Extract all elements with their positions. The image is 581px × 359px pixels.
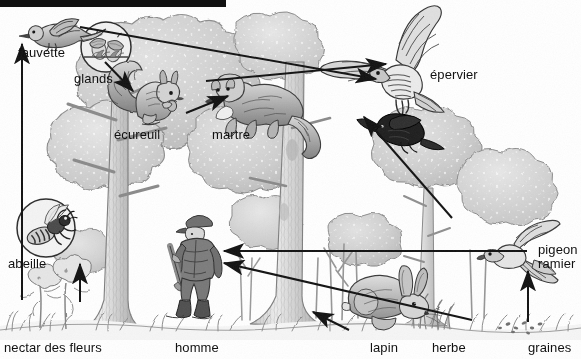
label-nectar-des-fleurs: nectar des fleurs xyxy=(4,341,102,355)
label-epervier: épervier xyxy=(430,68,478,82)
label-herbe: herbe xyxy=(432,341,466,355)
label-ecureuil: écureuil xyxy=(114,128,160,142)
label-graines: graines xyxy=(528,341,571,355)
label-pigeon-line1: pigeon xyxy=(538,243,578,257)
label-glands: glands xyxy=(74,72,113,86)
label-pigeon-line2: ramier xyxy=(538,257,575,271)
label-abeille: abeille xyxy=(8,257,46,271)
label-fauvette: fauvette xyxy=(18,46,65,60)
forest-food-web-illustration xyxy=(0,0,581,359)
label-lapin: lapin xyxy=(370,341,398,355)
label-homme: homme xyxy=(175,341,219,355)
food-web-figure: fauvette glands écureuil martre épervier… xyxy=(0,0,581,359)
label-martre: martre xyxy=(212,128,250,142)
black-redaction-bar xyxy=(0,0,226,7)
